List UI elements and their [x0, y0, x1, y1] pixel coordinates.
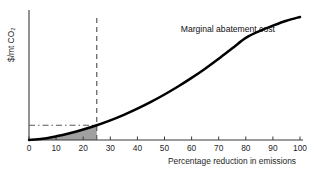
y-axis-title: $/mt CO₂	[6, 28, 16, 62]
x-tick-label: 100	[293, 143, 307, 153]
x-tick-label: 30	[106, 143, 116, 153]
x-tick-label: 70	[214, 143, 224, 153]
chart-container: 0102030405060708090100 Marginal abatemen…	[0, 0, 315, 178]
x-tick-label: 60	[187, 143, 197, 153]
marginal-abatement-cost-chart: 0102030405060708090100 Marginal abatemen…	[0, 0, 315, 178]
x-tick-label: 50	[160, 143, 170, 153]
x-tick-label: 40	[133, 143, 143, 153]
x-tick-label: 10	[51, 143, 61, 153]
x-tick-label: 90	[268, 143, 278, 153]
x-axis-title: Percentage reduction in emissions	[168, 156, 296, 166]
curve-label: Marginal abatement cost	[181, 24, 276, 34]
x-tick-label: 20	[79, 143, 89, 153]
x-tick-label: 80	[241, 143, 251, 153]
x-tick-label: 0	[27, 143, 32, 153]
